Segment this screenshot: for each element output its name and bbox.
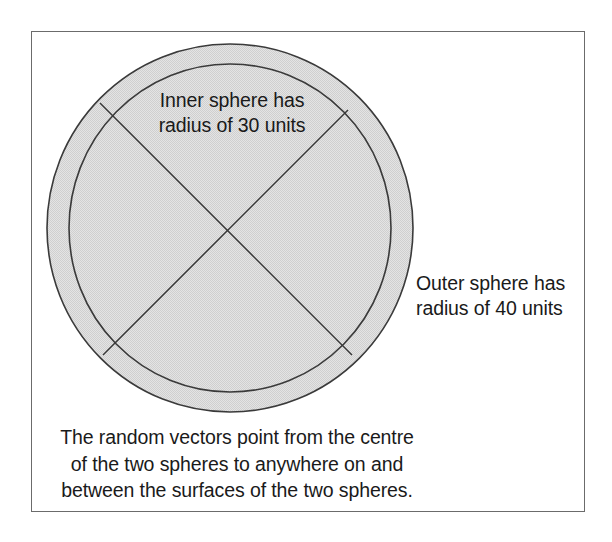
outer-sphere-label: Outer sphere has radius of 40 units: [416, 271, 588, 321]
figure-root: Inner sphere has radius of 30 units Oute…: [0, 0, 612, 542]
figure-caption: The random vectors point from the centre…: [42, 424, 432, 504]
inner-sphere-label: Inner sphere has radius of 30 units: [142, 88, 322, 138]
